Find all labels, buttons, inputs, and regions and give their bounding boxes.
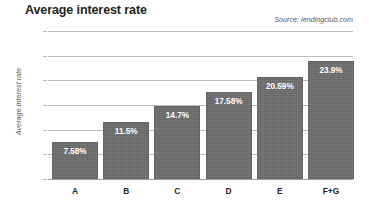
x-axis-category-label: C [154, 186, 200, 196]
bar-group: 20.59%E [257, 31, 303, 179]
bar[interactable] [308, 61, 354, 179]
gridline [48, 179, 353, 180]
y-axis-title: Average interest rate [14, 37, 23, 167]
y-axis-tick-mark [43, 56, 47, 57]
chart-container: Average interest rate Source: lendingclu… [0, 0, 369, 210]
y-axis-tick-mark [43, 179, 47, 180]
x-axis-category-label: F+G [308, 186, 354, 196]
bar-group: 17.58%D [206, 31, 252, 179]
x-axis-category-label: B [103, 186, 149, 196]
bar-value-label: 11.5% [103, 127, 149, 136]
bar-value-label: 20.59% [257, 82, 303, 91]
plot-area: 0%5%10%15%20%25%30% 7.58%A11.5%B14.7%C17… [48, 31, 353, 179]
chart-title: Average interest rate [25, 3, 147, 17]
bar-value-label: 7.58% [52, 147, 98, 156]
y-axis-tick-mark [43, 80, 47, 81]
bar-group: 14.7%C [154, 31, 200, 179]
bar-group: 11.5%B [103, 31, 149, 179]
y-axis-tick-mark [43, 31, 47, 32]
bar-value-label: 14.7% [154, 111, 200, 120]
y-axis-tick-mark [43, 130, 47, 131]
chart-source: Source: lendingclub.com [274, 15, 353, 24]
y-axis-tick-mark [43, 105, 47, 106]
bar-value-label: 17.58% [206, 97, 252, 106]
bar-group: 23.9%F+G [308, 31, 354, 179]
y-axis-tick-mark [43, 154, 47, 155]
bar-group: 7.58%A [52, 31, 98, 179]
x-axis-category-label: E [257, 186, 303, 196]
bar-series: 7.58%A11.5%B14.7%C17.58%D20.59%E23.9%F+G [48, 31, 353, 179]
bar-value-label: 23.9% [308, 66, 354, 75]
bar[interactable] [257, 77, 303, 179]
x-axis-category-label: A [52, 186, 98, 196]
x-axis-category-label: D [206, 186, 252, 196]
